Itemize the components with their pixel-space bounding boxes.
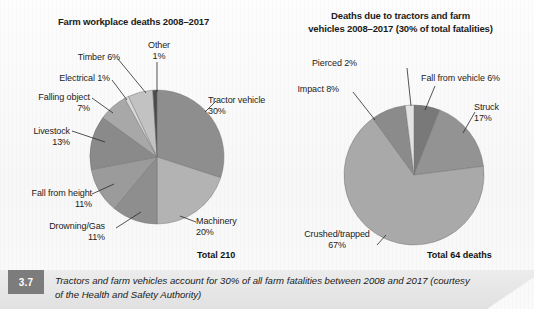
pie-label-struck: Struck 17%: [474, 102, 534, 124]
figure-pie-charts: Farm workplace deaths 2008–2017 Other 1%…: [0, 0, 534, 309]
total-label-right: Total 64 deaths: [427, 250, 492, 260]
leader-line: [112, 80, 127, 100]
pie-label-machinery: Machinery 20%: [196, 216, 272, 238]
pie-label-falling-object: Falling object 7%: [5, 92, 90, 114]
pie-label-timber: Timber 6%: [40, 52, 120, 63]
caption-text: Tractors and farm vehicles account for 3…: [55, 274, 475, 302]
pie-label-livestock: Livestock 13%: [0, 126, 70, 148]
pie-right-slice-group: [344, 105, 484, 245]
pie-label-electrical: Electrical 1%: [15, 73, 110, 84]
chart-panel-tractor-vehicle-deaths: Deaths due to tractors and farm vehicles…: [267, 0, 534, 266]
pie-chart-tractor-vehicle-deaths: [267, 0, 534, 266]
leader-line: [353, 92, 375, 120]
leader-line: [425, 86, 435, 110]
pie-label-fall-from-vehicle: Fall from vehicle 6%: [421, 73, 534, 84]
leader-line: [407, 68, 411, 106]
pie-label-drowning-gas: Drowning/Gas 11%: [20, 221, 105, 243]
chart-panel-farm-workplace-deaths: Farm workplace deaths 2008–2017 Other 1%…: [0, 0, 267, 266]
pie-label-crushed-trapped: Crushed/trapped 67%: [287, 229, 387, 251]
leader-line: [92, 98, 113, 113]
pie-left-slice-group: [90, 90, 224, 224]
caption-number-badge: 3.7: [8, 270, 44, 294]
pie-label-pierced: Pierced 2%: [267, 58, 357, 69]
figure-caption: 3.7 Tractors and farm vehicles account f…: [0, 270, 534, 309]
pie-label-impact: Impact 8%: [267, 84, 339, 95]
leader-line: [118, 59, 146, 93]
pie-label-other: Other 1%: [133, 40, 185, 62]
pie-label-fall-from-height: Fall from height 11%: [0, 188, 92, 210]
total-label-left: Total 210: [197, 250, 235, 260]
